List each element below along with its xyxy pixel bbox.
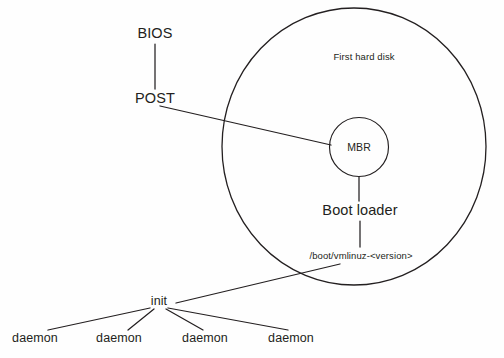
node-label-init: init: [151, 295, 167, 309]
node-label-kernel-path: /boot/vmlinuz-<version>: [309, 251, 412, 261]
node-label-daemon-2: daemon: [96, 332, 142, 346]
node-label-daemon-1: daemon: [12, 332, 58, 346]
boot-process-diagram: BIOS POST First hard disk MBR Boot loade…: [0, 0, 504, 358]
edge-kernel-init: [176, 264, 340, 303]
node-label-boot-loader: Boot loader: [322, 203, 397, 219]
node-label-bios: BIOS: [137, 26, 172, 42]
node-label-post: POST: [135, 91, 175, 107]
edge-post-mbr: [160, 106, 331, 145]
diagram-canvas: [0, 0, 504, 358]
node-label-daemon-4: daemon: [268, 332, 314, 346]
node-label-mbr: MBR: [347, 142, 371, 154]
node-label-first-hard-disk: First hard disk: [333, 52, 394, 62]
edge-init-daemon-1: [48, 308, 150, 330]
edge-init-daemon-4: [168, 308, 288, 330]
node-label-daemon-3: daemon: [182, 332, 228, 346]
edge-init-daemon-3: [166, 309, 203, 330]
